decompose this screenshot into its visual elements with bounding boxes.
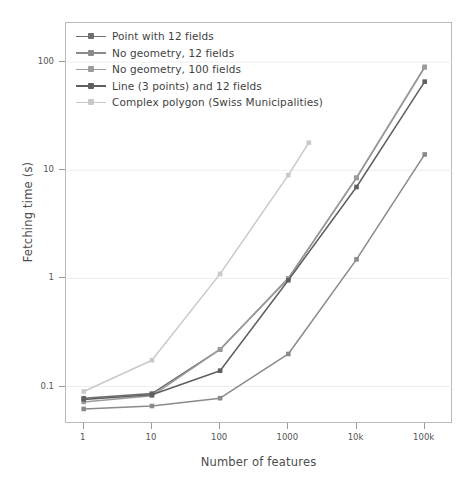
series-marker-3-3 bbox=[286, 278, 291, 283]
legend-label: Point with 12 fields bbox=[112, 30, 214, 42]
x-tick-label: 1000 bbox=[262, 432, 312, 442]
legend-label: Complex polygon (Swiss Municipalities) bbox=[112, 96, 323, 108]
series-marker-2-2 bbox=[218, 347, 223, 352]
series-marker-3-4 bbox=[354, 185, 359, 190]
x-axis-title: Number of features bbox=[65, 455, 452, 469]
x-tick-label: 100 bbox=[194, 432, 244, 442]
series-marker-1-0 bbox=[81, 407, 86, 412]
legend-marker bbox=[88, 66, 94, 72]
y-axis-title: Fetching time (s) bbox=[21, 122, 35, 302]
legend-marker bbox=[88, 99, 94, 105]
chart-figure: Fetching time (s) Number of features 0.1… bbox=[0, 0, 476, 488]
x-tick-label: 1 bbox=[58, 432, 108, 442]
legend-swatch bbox=[76, 80, 106, 92]
series-marker-4-0 bbox=[81, 389, 86, 394]
legend-label: No geometry, 100 fields bbox=[112, 63, 241, 75]
legend-item-3[interactable]: Line (3 points) and 12 fields bbox=[76, 78, 323, 95]
legend-swatch bbox=[76, 30, 106, 42]
legend-marker bbox=[88, 50, 94, 56]
series-marker-4-4 bbox=[307, 140, 312, 145]
chart-legend: Point with 12 fieldsNo geometry, 12 fiel… bbox=[72, 26, 327, 113]
legend-item-0[interactable]: Point with 12 fields bbox=[76, 28, 323, 45]
series-marker-1-3 bbox=[286, 352, 291, 357]
series-marker-4-1 bbox=[150, 358, 155, 363]
series-marker-4-2 bbox=[218, 272, 223, 277]
series-marker-3-2 bbox=[218, 368, 223, 373]
legend-marker bbox=[88, 33, 94, 39]
y-tick-label: 100 bbox=[16, 56, 54, 66]
legend-swatch bbox=[76, 63, 106, 75]
series-line-4 bbox=[84, 143, 309, 392]
legend-swatch bbox=[76, 96, 106, 108]
legend-label: Line (3 points) and 12 fields bbox=[112, 80, 262, 92]
legend-item-1[interactable]: No geometry, 12 fields bbox=[76, 45, 323, 62]
x-tick-label: 100k bbox=[399, 432, 449, 442]
x-tick-label: 10k bbox=[331, 432, 381, 442]
series-marker-1-1 bbox=[150, 404, 155, 409]
series-marker-2-5 bbox=[422, 65, 427, 70]
series-marker-3-0 bbox=[81, 397, 86, 402]
series-marker-1-5 bbox=[422, 152, 427, 157]
x-tick-label: 10 bbox=[126, 432, 176, 442]
series-marker-1-2 bbox=[218, 396, 223, 401]
series-line-3 bbox=[84, 82, 425, 400]
legend-marker bbox=[88, 83, 94, 89]
series-marker-3-5 bbox=[422, 79, 427, 84]
y-tick-label: 0.1 bbox=[16, 381, 54, 391]
series-marker-4-3 bbox=[286, 173, 291, 178]
legend-label: No geometry, 12 fields bbox=[112, 47, 234, 59]
series-marker-1-4 bbox=[354, 257, 359, 262]
series-marker-3-1 bbox=[150, 392, 155, 397]
legend-item-4[interactable]: Complex polygon (Swiss Municipalities) bbox=[76, 94, 323, 111]
series-line-1 bbox=[84, 154, 425, 409]
legend-item-2[interactable]: No geometry, 100 fields bbox=[76, 61, 323, 78]
series-line-2 bbox=[84, 67, 425, 402]
series-marker-2-4 bbox=[354, 176, 359, 181]
legend-swatch bbox=[76, 47, 106, 59]
